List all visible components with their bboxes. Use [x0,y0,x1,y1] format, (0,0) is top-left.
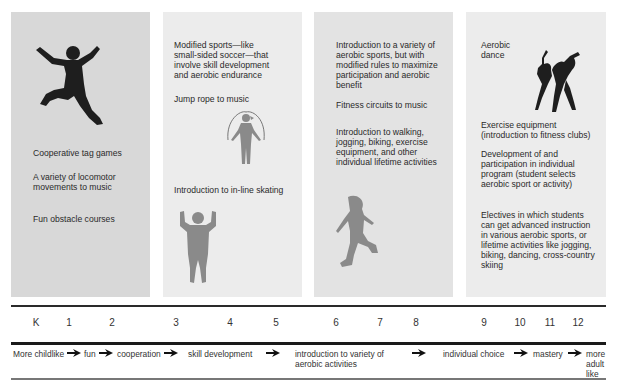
arrow-right-icon [412,349,426,357]
panel-2-item-1: Modified sports—like small-sided soccer—… [174,40,279,80]
grade-7: 7 [377,317,383,328]
panel-1-item-3: Fun obstacle courses [33,214,148,224]
panel-4-item-4: Electives in which students can get adva… [481,210,596,270]
arrow-right-icon [514,349,528,357]
rule-bottom [11,378,606,380]
rule-top [11,305,606,307]
progression-stage-7: mastery [533,349,563,359]
progression-stage-4: skill development [188,349,252,359]
progression-stage-2: fun [84,349,96,359]
aerobic-dancers-icon [534,50,580,114]
grade-4: 4 [227,317,233,328]
rule-middle [11,342,606,345]
grade-2: 2 [109,317,115,328]
grade-5: 5 [273,317,279,328]
grade-8: 8 [413,317,419,328]
arrow-right-icon [164,349,178,357]
progression-stage-6: individual choice [443,349,504,359]
panel-2-item-2: Jump rope to music [174,94,294,104]
panel-1-item-2: A variety of locomotor movements to musi… [33,172,121,192]
jump-rope-child-icon [224,110,268,168]
flexing-child-icon [178,210,218,286]
panel-3-item-1: Introduction to a variety of aerobic spo… [336,40,446,90]
panel-2-item-3: Introduction to in-line skating [174,185,299,195]
panel-3-item-2: Fitness circuits to music [336,100,451,110]
grade-k: K [33,317,40,328]
panel-4-item-2: Exercise equipment (introduction to fitn… [481,120,603,140]
jumping-child-icon [34,44,110,128]
inline-skater-icon [334,195,384,271]
arrow-right-icon [67,349,81,357]
arrow-right-icon [568,349,582,357]
progression-stage-1: More childlike [13,349,64,359]
grade-9: 9 [481,317,487,328]
grade-3: 3 [173,317,179,328]
arrow-right-icon [266,349,280,357]
panel-4-item-1: Aerobic dance [481,40,517,60]
grade-12: 12 [572,317,583,328]
panel-4-item-3: Development of and participation in indi… [481,149,591,189]
progression-stage-8: more adult like [586,349,612,379]
progression-stage-5: introduction to variety of aerobic activ… [295,349,405,369]
grade-10: 10 [514,317,525,328]
arrow-right-icon [99,349,113,357]
grade-6: 6 [333,317,339,328]
panel-1-item-1: Cooperative tag games [33,148,148,158]
grade-11: 11 [545,317,555,328]
panel-3-item-3: Introduction to walking, jogging, biking… [336,127,446,167]
grade-1: 1 [66,317,72,328]
progression-stage-3: cooperation [117,349,161,359]
